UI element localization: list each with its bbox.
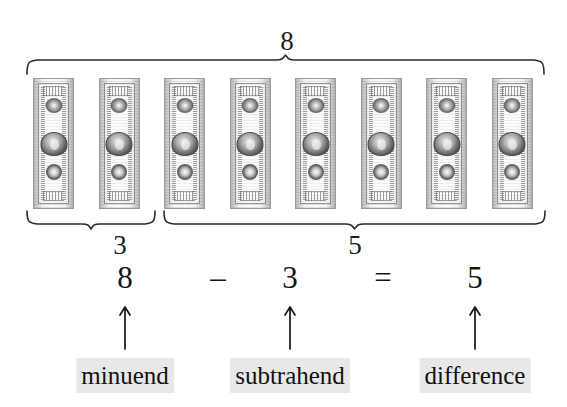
one-dollar-bill xyxy=(361,78,402,209)
bill-portrait xyxy=(368,132,395,156)
one-dollar-bill xyxy=(230,78,271,209)
bill-top-seal xyxy=(111,98,128,113)
bill-portrait xyxy=(433,132,460,156)
bill-row xyxy=(33,78,533,209)
bill-bottom-seal xyxy=(177,164,193,180)
bill-bottom-ornament xyxy=(371,191,392,201)
bill-top-ornament xyxy=(502,86,523,96)
bill-portrait xyxy=(171,132,198,156)
bill-top-ornament xyxy=(371,86,392,96)
bill-portrait xyxy=(106,132,133,156)
bill-top-seal xyxy=(307,98,324,113)
bill-top-seal xyxy=(373,98,390,113)
bill-portrait xyxy=(237,132,264,156)
bill-top-ornament xyxy=(174,86,195,96)
one-dollar-bill xyxy=(492,78,533,209)
bill-top-seal xyxy=(176,98,193,113)
bill-portrait xyxy=(499,132,526,156)
arrow-up-icon-difference xyxy=(467,305,483,349)
one-dollar-bill xyxy=(295,78,336,209)
bill-bottom-seal xyxy=(373,164,389,180)
bill-bottom-ornament xyxy=(502,191,523,201)
bill-bottom-seal xyxy=(111,164,127,180)
subtraction-diagram: 8 xyxy=(0,0,567,407)
bill-portrait xyxy=(40,132,67,156)
right-group-brace xyxy=(163,210,546,230)
one-dollar-bill xyxy=(426,78,467,209)
right-group-count-label: 5 xyxy=(348,232,362,259)
total-count-label: 8 xyxy=(280,28,294,55)
label-subtrahend: subtrahend xyxy=(230,358,350,393)
equation-minuend: 8 xyxy=(117,262,133,293)
equation-subtrahend: 3 xyxy=(282,262,298,293)
bill-top-ornament xyxy=(43,86,64,96)
label-difference: difference xyxy=(420,358,531,393)
arrow-up-icon-minuend xyxy=(117,305,133,349)
one-dollar-bill xyxy=(33,78,74,209)
bill-bottom-ornament xyxy=(436,191,457,201)
bill-bottom-seal xyxy=(308,164,324,180)
bill-top-ornament xyxy=(109,86,130,96)
bill-bottom-seal xyxy=(439,164,455,180)
total-brace xyxy=(26,55,545,75)
arrow-up-icon-subtrahend xyxy=(282,305,298,349)
bill-bottom-ornament xyxy=(240,191,261,201)
equation-equals-sign: = xyxy=(374,262,391,293)
bill-bottom-ornament xyxy=(305,191,326,201)
label-minuend: minuend xyxy=(76,358,174,393)
bill-bottom-seal xyxy=(46,164,62,180)
bill-bottom-ornament xyxy=(174,191,195,201)
bill-bottom-ornament xyxy=(109,191,130,201)
bill-top-seal xyxy=(242,98,259,113)
bill-bottom-seal xyxy=(242,164,258,180)
one-dollar-bill xyxy=(99,78,140,209)
bill-portrait xyxy=(302,132,329,156)
one-dollar-bill xyxy=(164,78,205,209)
equation-minus-sign: – xyxy=(210,262,226,293)
bill-top-ornament xyxy=(436,86,457,96)
bill-top-ornament xyxy=(240,86,261,96)
bill-top-seal xyxy=(438,98,455,113)
bill-bottom-seal xyxy=(504,164,520,180)
bill-top-ornament xyxy=(305,86,326,96)
bill-top-seal xyxy=(504,98,521,113)
bill-bottom-ornament xyxy=(43,191,64,201)
left-group-count-label: 3 xyxy=(113,232,127,259)
left-group-brace xyxy=(26,210,156,230)
bill-top-seal xyxy=(45,98,62,113)
equation-difference: 5 xyxy=(467,262,483,293)
